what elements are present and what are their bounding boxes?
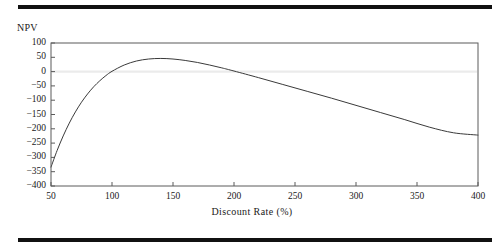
x-tick-label: 100 <box>92 192 132 202</box>
y-tick-label: −150 <box>2 110 46 120</box>
x-tick-label: 150 <box>153 192 193 202</box>
x-tick-label: 200 <box>214 192 254 202</box>
y-tick-label: 0 <box>2 67 46 77</box>
x-tick-label: 250 <box>275 192 315 202</box>
x-tick-label: 50 <box>31 192 71 202</box>
y-tick-label: 50 <box>2 52 46 62</box>
y-tick-label: 100 <box>2 38 46 48</box>
x-axis-title: Discount Rate (%) <box>0 206 504 217</box>
y-tick-label: −400 <box>2 181 46 191</box>
y-tick-label: −350 <box>2 167 46 177</box>
y-tick-label: −300 <box>2 152 46 162</box>
y-tick-label: −100 <box>2 95 46 105</box>
x-tick-label: 400 <box>458 192 498 202</box>
npv-discount-rate-chart: NPV 100500−50−100−150−200−250−300−350−40… <box>0 0 504 247</box>
y-tick-label: −250 <box>2 138 46 148</box>
plot-background <box>51 43 478 186</box>
x-tick-label: 300 <box>336 192 376 202</box>
figure-container: NPV 100500−50−100−150−200−250−300−350−40… <box>0 0 504 247</box>
x-tick-label: 350 <box>397 192 437 202</box>
y-tick-label: −50 <box>2 81 46 91</box>
y-tick-label: −200 <box>2 124 46 134</box>
